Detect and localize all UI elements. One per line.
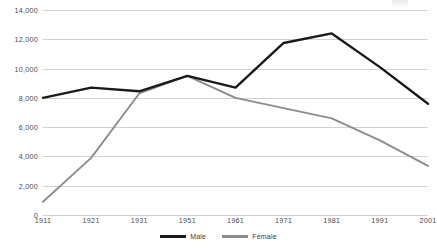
x-axis-tick-label: 1971 (275, 216, 292, 225)
y-axis-tick-label: 10,000 (15, 64, 38, 73)
x-axis-tick-label: 1921 (83, 216, 100, 225)
legend-item-label: Male (190, 233, 206, 240)
series-line-female (43, 76, 428, 202)
legend-item-female[interactable]: Female (222, 233, 277, 240)
series-line-male (43, 33, 428, 103)
x-axis-tick-label: 1961 (227, 216, 244, 225)
legend-line-swatch-icon (222, 235, 248, 237)
y-axis-tick-label: 4,000 (19, 152, 38, 161)
y-axis-tick-label: 14,000 (15, 6, 38, 15)
legend-item-label: Female (252, 233, 277, 240)
legend-item-male[interactable]: Male (160, 233, 206, 240)
x-axis-tick-label: 1951 (179, 216, 196, 225)
y-axis-tick-label: 12,000 (15, 35, 38, 44)
x-axis: 191119211931195119611971198119912001 (43, 216, 428, 230)
series-lines (43, 10, 428, 215)
x-axis-tick-label: 1991 (371, 216, 388, 225)
x-axis-tick-label: 1981 (323, 216, 340, 225)
x-axis-tick-label: 2001 (419, 216, 436, 225)
scan-artifact (392, 0, 408, 8)
y-axis-tick-label: 2,000 (19, 181, 38, 190)
y-axis-tick-label: 6,000 (19, 123, 38, 132)
legend-line-swatch-icon (160, 235, 186, 238)
x-axis-tick-label: 1911 (35, 216, 52, 225)
y-axis: 02,0004,0006,0008,00010,00012,00014,000 (0, 10, 38, 215)
chart-legend: MaleFemale (0, 233, 437, 240)
line-chart: 02,0004,0006,0008,00010,00012,00014,000 … (0, 0, 437, 251)
y-axis-tick-label: 8,000 (19, 93, 38, 102)
plot-area (43, 10, 428, 215)
x-axis-tick-label: 1931 (131, 216, 148, 225)
